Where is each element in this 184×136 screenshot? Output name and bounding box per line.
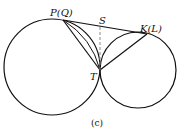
label-T: T: [90, 71, 98, 82]
geometry-diagram: P(Q) S K(L) T (c): [0, 0, 184, 136]
figure-caption: (c): [91, 118, 103, 128]
label-S: S: [99, 15, 106, 26]
right-circle: [100, 32, 176, 108]
label-K: K(L): [139, 23, 162, 34]
label-P: P(Q): [49, 7, 73, 18]
segment-TK: [100, 34, 147, 70]
left-circle: [4, 19, 100, 115]
